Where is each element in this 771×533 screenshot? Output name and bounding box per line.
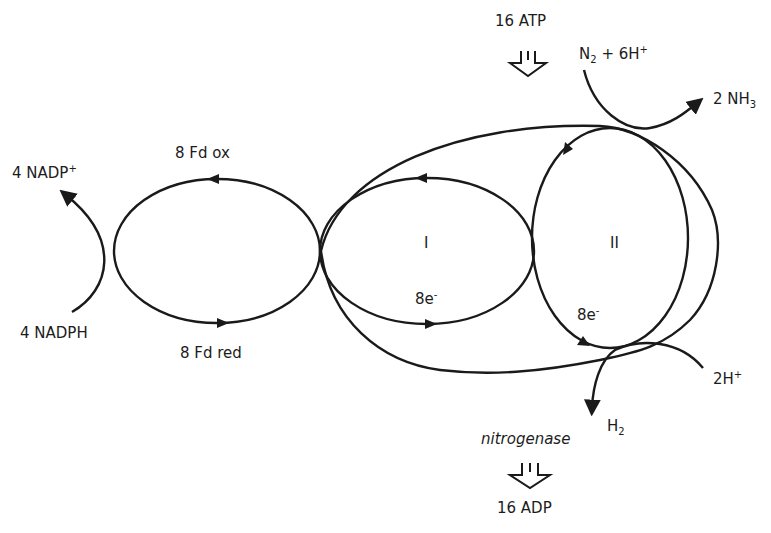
adp-hollow-arrow-icon <box>510 463 550 488</box>
proton-superscript: + <box>734 369 742 380</box>
electrons-II-superscript: - <box>596 305 600 316</box>
nh3-label: 2 NH3 <box>713 92 756 110</box>
h2-subscript: 2 <box>618 426 624 437</box>
nadph-label: 4 NADPH <box>20 326 88 341</box>
component-II-bottom-arrowhead <box>577 336 590 346</box>
atp-label: 16 ATP <box>495 14 546 29</box>
nitrogenase-cycle-diagram <box>0 0 771 533</box>
h-to-h2-arrow <box>592 343 703 408</box>
fd-red-arrowhead <box>217 318 229 328</box>
fd-ox-arrowhead <box>207 174 219 184</box>
h2-label: H2 <box>607 419 625 437</box>
nadp-text: 4 NADP <box>12 164 68 182</box>
component-I-top-arrowhead <box>415 173 427 183</box>
electrons-I-superscript: - <box>434 289 438 300</box>
component-I-label: I <box>424 236 428 251</box>
n2-label: N2 + 6H+ <box>579 45 648 65</box>
proton-label: 2H+ <box>713 370 742 387</box>
atp-hollow-arrow-icon <box>510 51 546 76</box>
n2-text: N <box>579 45 590 63</box>
nh3-text: 2 NH <box>713 90 750 108</box>
component-I-bottom-arrowhead <box>425 319 437 329</box>
fd-red-label: 8 Fd red <box>180 346 242 361</box>
ferredoxin-cycle-ellipse <box>114 179 320 323</box>
electrons-I-label: 8e- <box>415 290 437 307</box>
n2-plus-text: + 6H <box>597 45 640 63</box>
proton-text: 2H <box>713 370 734 388</box>
electrons-I-text: 8e <box>415 290 434 308</box>
nitrogenase-label: nitrogenase <box>481 432 570 447</box>
nadph-to-nadp-arrow <box>66 195 104 312</box>
n2-to-nh3-arrow <box>584 70 697 128</box>
h2-text: H <box>607 417 618 435</box>
nh3-subscript: 3 <box>750 99 756 110</box>
nadp-label: 4 NADP+ <box>12 164 77 181</box>
fd-ox-label: 8 Fd ox <box>175 146 230 161</box>
n2-superscript: + <box>640 44 648 55</box>
nitrogenase-outer-loop <box>321 126 718 373</box>
electrons-II-label: 8e- <box>577 306 599 323</box>
component-II-label: II <box>610 236 619 251</box>
nadp-superscript: + <box>68 163 76 174</box>
electrons-II-text: 8e <box>577 306 596 324</box>
adp-label: 16 ADP <box>497 501 552 516</box>
